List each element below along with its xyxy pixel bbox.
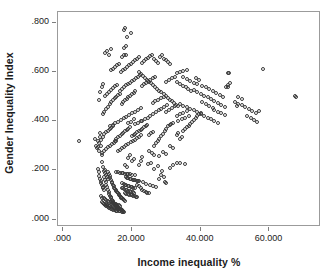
data-point xyxy=(137,163,141,167)
data-point xyxy=(124,44,128,48)
data-point xyxy=(257,109,261,113)
data-point xyxy=(98,90,102,94)
y-tick-label: .800 xyxy=(5,16,49,26)
data-point xyxy=(133,89,137,93)
y-axis-title: Gender Inequality Index xyxy=(0,0,18,226)
data-point xyxy=(147,191,151,195)
data-point xyxy=(221,95,225,99)
data-point xyxy=(107,53,111,57)
data-point xyxy=(139,106,143,110)
data-point xyxy=(164,181,168,185)
data-point xyxy=(227,71,231,75)
data-point xyxy=(183,162,187,166)
x-tick-label: 60.000 xyxy=(238,233,298,243)
data-point xyxy=(122,210,126,214)
y-tick-mark xyxy=(52,120,56,121)
x-axis-title: Income inequality % xyxy=(57,256,321,268)
data-point xyxy=(115,83,119,87)
data-point xyxy=(187,114,191,118)
data-point xyxy=(157,154,161,158)
data-point xyxy=(102,188,106,192)
data-point xyxy=(156,164,160,168)
data-point xyxy=(124,53,128,57)
x-tick-mark xyxy=(62,227,63,231)
data-point xyxy=(125,35,129,39)
data-point xyxy=(118,204,122,208)
data-point xyxy=(216,121,220,125)
y-tick-label: .000 xyxy=(5,213,49,223)
data-point xyxy=(151,130,155,134)
y-tick-label: .400 xyxy=(5,114,49,124)
scatter-chart: Gender Inequality Index .000.200.400.600… xyxy=(0,0,331,278)
data-point xyxy=(171,146,175,150)
y-tick-label: .600 xyxy=(5,65,49,75)
data-point xyxy=(100,85,104,89)
x-tick-label: 20.000 xyxy=(101,233,161,243)
data-point xyxy=(165,103,169,107)
data-point xyxy=(125,165,129,169)
data-point xyxy=(119,207,123,211)
data-point xyxy=(128,125,132,129)
data-point xyxy=(223,113,227,117)
data-point xyxy=(185,68,189,72)
data-point xyxy=(152,167,156,171)
plot-area xyxy=(57,11,320,226)
data-point xyxy=(240,97,244,101)
data-point xyxy=(137,55,141,59)
data-point xyxy=(173,75,177,79)
data-point xyxy=(162,175,166,179)
data-point xyxy=(133,173,137,177)
data-point xyxy=(145,123,149,127)
data-point xyxy=(140,155,144,159)
data-point xyxy=(117,62,121,66)
data-point xyxy=(168,62,172,66)
x-tick-mark xyxy=(268,227,269,231)
data-point xyxy=(175,71,179,75)
data-point xyxy=(162,95,166,99)
data-point xyxy=(97,98,101,102)
data-point xyxy=(101,82,105,86)
data-point xyxy=(154,185,158,189)
data-point xyxy=(135,195,139,199)
y-tick-mark xyxy=(52,219,56,220)
x-tick-mark xyxy=(131,227,132,231)
data-point xyxy=(123,199,127,203)
data-point xyxy=(150,53,154,57)
data-point xyxy=(156,61,160,65)
data-point xyxy=(261,67,265,71)
data-point xyxy=(96,145,100,149)
data-point xyxy=(109,47,113,51)
y-tick-mark xyxy=(52,22,56,23)
data-point xyxy=(139,159,143,163)
data-point xyxy=(223,105,227,109)
data-point xyxy=(153,75,157,79)
data-point xyxy=(100,160,104,164)
y-tick-label: .200 xyxy=(5,163,49,173)
data-point xyxy=(173,104,177,108)
data-point xyxy=(149,161,153,165)
data-point xyxy=(77,139,81,143)
data-point xyxy=(157,177,161,181)
data-point xyxy=(139,133,143,137)
data-point xyxy=(164,152,168,156)
x-tick-label: .000 xyxy=(32,233,92,243)
data-point xyxy=(235,104,239,108)
data-point xyxy=(114,139,118,143)
y-tick-mark xyxy=(52,71,56,72)
data-point xyxy=(197,78,201,82)
x-tick-label: 40.000 xyxy=(170,233,230,243)
data-point xyxy=(294,95,298,99)
data-point xyxy=(160,169,164,173)
data-point xyxy=(195,82,199,86)
data-point xyxy=(180,135,184,139)
data-point xyxy=(255,120,259,124)
data-point xyxy=(152,153,156,157)
y-tick-mark xyxy=(52,169,56,170)
data-point xyxy=(226,85,230,89)
data-point xyxy=(123,26,127,30)
data-point xyxy=(171,121,175,125)
x-tick-mark xyxy=(200,227,201,231)
data-point xyxy=(132,157,136,161)
data-point xyxy=(178,161,182,165)
data-point xyxy=(129,31,133,35)
